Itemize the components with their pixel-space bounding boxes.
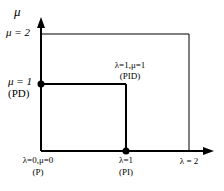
pd-label: (PD) bbox=[8, 88, 29, 99]
mu1-label: μ = 1 bbox=[8, 76, 32, 87]
pd-point bbox=[38, 81, 45, 88]
y-axis-arrow-icon bbox=[37, 17, 45, 28]
y-axis-label: μ bbox=[14, 5, 21, 18]
lambda2-label: λ = 2 bbox=[169, 156, 209, 167]
origin-label-bottom: (P) bbox=[13, 167, 63, 178]
pid-label-top: λ=1,μ=1 bbox=[105, 60, 155, 71]
mu2-label: μ = 2 bbox=[6, 27, 30, 38]
x-axis-arrow-icon bbox=[203, 147, 214, 155]
pi-point bbox=[123, 148, 130, 155]
origin-label-top: λ=0,μ=0 bbox=[13, 155, 63, 166]
pid-label-bottom: (PID) bbox=[105, 71, 155, 82]
lambda1-label-bottom: (PI) bbox=[106, 167, 146, 178]
lambda1-label-top: λ=1 bbox=[106, 155, 146, 166]
